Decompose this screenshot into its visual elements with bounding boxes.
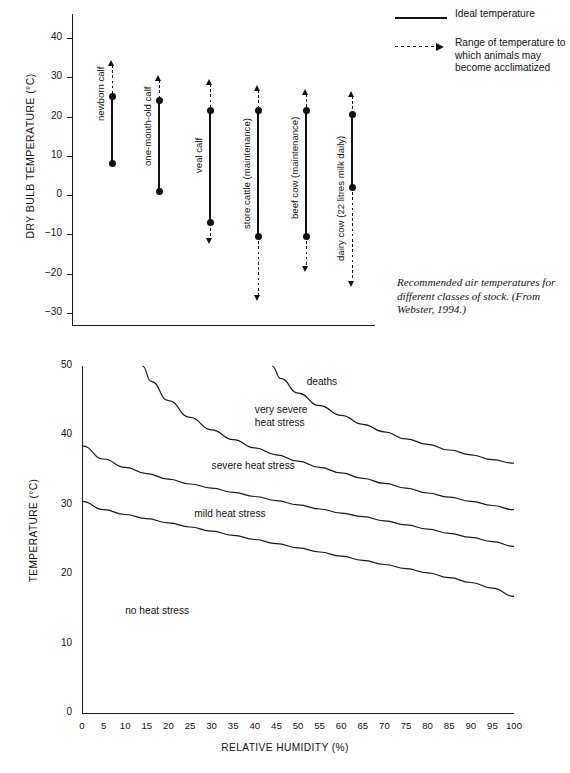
upper-y-tick-label: −30 [32, 306, 62, 317]
heat-stress-zone-label: deaths [307, 376, 338, 388]
legend: Ideal temperature Range of temperature t… [395, 8, 570, 66]
upper-y-tick-label: 20 [32, 110, 62, 121]
acclimatized-range-dashed-line-down [352, 187, 353, 282]
acclimatized-range-arrow-up-icon [348, 91, 354, 97]
legend-label-acclimatized-range: Range of temperature to which animals ma… [455, 37, 570, 75]
upper-series-category-label: beef cow (maintenance) [289, 117, 300, 219]
acclimatized-range-arrow-down-icon [254, 295, 260, 301]
upper-chart-dry-bulb-temperature: DRY BULB TEMPERATURE (°C) 403020100−10−2… [0, 0, 570, 340]
acclimatized-range-arrow-down-icon [206, 238, 212, 244]
upper-y-tick-mark [67, 156, 72, 157]
upper-y-tick-label: 40 [32, 31, 62, 42]
acclimatized-range-dashed-line-up [112, 65, 113, 97]
acclimatized-range-arrow-up-icon [302, 89, 308, 95]
acclimatized-range-arrow-up-icon [108, 60, 114, 66]
acclimatized-range-dashed-line-up [306, 94, 307, 111]
ideal-temperature-bar [351, 115, 353, 188]
heat-stress-zone-label: very severeheat stress [255, 404, 308, 429]
legend-item-acclimatized-range: Range of temperature to which animals ma… [395, 37, 570, 53]
heat-stress-zone-label: severe heat stress [212, 460, 295, 472]
ideal-temperature-endpoint-dot [156, 188, 163, 195]
upper-series-category-label: store cattle (maintenance) [241, 118, 252, 229]
upper-series-category-label: one-month-old calf [142, 87, 153, 166]
legend-label-ideal-temperature: Ideal temperature [455, 8, 535, 21]
upper-y-tick-mark [67, 38, 72, 39]
acclimatized-range-dashed-line-down [258, 236, 259, 296]
heat-stress-boundary-curve [82, 501, 514, 596]
acclimatized-range-arrow-up-icon [155, 75, 161, 81]
upper-y-tick-mark [67, 234, 72, 235]
acclimatized-range-dashed-line-up [258, 90, 259, 111]
upper-chart-y-axis [72, 14, 73, 326]
acclimatized-range-dashed-line-up [210, 84, 211, 110]
figure-caption: Recommended air temperatures for differe… [397, 276, 565, 317]
acclimatized-range-arrow-down-icon [302, 266, 308, 272]
legend-key-dashed-arrow-icon [395, 43, 447, 51]
acclimatized-range-arrow-up-icon [254, 85, 260, 91]
upper-series-category-label: dairy cow (22 litres milk daily) [335, 136, 346, 261]
upper-y-tick-label: 10 [32, 149, 62, 160]
upper-chart-x-axis [72, 325, 375, 326]
upper-y-tick-label: −10 [32, 227, 62, 238]
heat-stress-zone-label: mild heat stress [194, 508, 265, 520]
legend-key-solid-line-icon [395, 14, 447, 22]
ideal-temperature-endpoint-dot [109, 160, 116, 167]
upper-y-tick-label: 30 [32, 70, 62, 81]
acclimatized-range-arrow-down-icon [348, 281, 354, 287]
upper-y-tick-mark [67, 77, 72, 78]
upper-y-tick-label: 0 [32, 188, 62, 199]
lower-chart-heat-stress: TEMPERATURE (°C) RELATIVE HUMIDITY (%) 0… [0, 340, 570, 773]
upper-y-tick-mark [67, 313, 72, 314]
acclimatized-range-arrow-up-icon [206, 79, 212, 85]
ideal-temperature-bar [111, 97, 113, 164]
ideal-temperature-bar [209, 111, 211, 223]
acclimatized-range-dashed-line-down [306, 236, 307, 266]
upper-series-category-label: veal calf [193, 138, 204, 173]
legend-item-ideal-temperature: Ideal temperature [395, 8, 570, 24]
ideal-temperature-bar [305, 111, 307, 237]
acclimatized-range-dashed-line-up [159, 80, 160, 101]
upper-y-tick-mark [67, 117, 72, 118]
upper-y-tick-mark [67, 274, 72, 275]
acclimatized-range-dashed-line-up [352, 96, 353, 115]
heat-stress-zone-label: no heat stress [125, 605, 189, 617]
upper-y-tick-mark [67, 195, 72, 196]
acclimatized-range-dashed-line-down [210, 223, 211, 240]
upper-y-tick-label: −20 [32, 267, 62, 278]
ideal-temperature-bar [158, 101, 160, 191]
ideal-temperature-bar [257, 111, 259, 237]
upper-series-category-label: newborn calf [95, 67, 106, 121]
